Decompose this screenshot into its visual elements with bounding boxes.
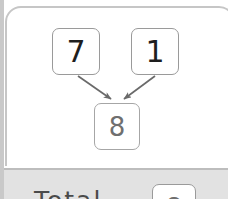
footer-label: Total bbox=[34, 186, 102, 199]
node-result[interactable]: 8 bbox=[94, 103, 140, 150]
diagram-canvas: 7 1 8 bbox=[0, 0, 228, 166]
footer-value-box[interactable]: 8 bbox=[152, 184, 196, 199]
footer-value-label: 8 bbox=[166, 194, 182, 200]
node-operand-b-label: 1 bbox=[145, 37, 164, 67]
node-operand-b[interactable]: 1 bbox=[131, 28, 179, 75]
edge-operand-b-to-result bbox=[124, 76, 155, 99]
node-operand-a[interactable]: 7 bbox=[52, 28, 100, 75]
node-result-label: 8 bbox=[109, 114, 126, 140]
screenshot-root: 7 1 8 Total 8 bbox=[0, 0, 228, 199]
footer-row: Total 8 bbox=[4, 170, 228, 199]
edge-operand-a-to-result bbox=[78, 76, 111, 99]
footer-panel: Total 8 bbox=[4, 168, 228, 199]
node-operand-a-label: 7 bbox=[66, 37, 85, 67]
